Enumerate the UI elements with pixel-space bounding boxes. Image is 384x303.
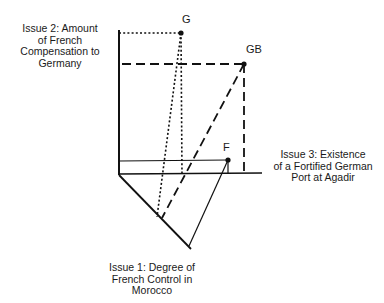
- issue1-axis: [119, 175, 191, 249]
- axes: [119, 30, 262, 249]
- issue2-axis-label: Issue 2: Amount of French Compensation t…: [4, 23, 116, 69]
- point-g-label: G: [182, 13, 191, 25]
- issue3-axis-label: Issue 3: Existence of a Fortified German…: [264, 149, 382, 184]
- point-g-marker: [178, 30, 183, 35]
- point-f-label: F: [223, 141, 230, 153]
- point-gb-label: GB: [246, 43, 262, 55]
- issue1-axis-label: Issue 1: Degree of French Control in Mor…: [97, 262, 207, 297]
- point-g-projections: [119, 33, 182, 217]
- point-f-marker: [225, 157, 230, 162]
- issue3-axis: [119, 173, 262, 174]
- point-gb-marker: [241, 61, 246, 66]
